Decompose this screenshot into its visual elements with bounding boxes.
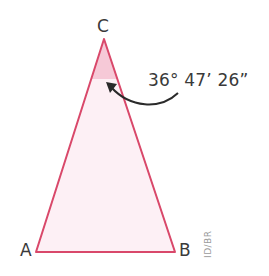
vertex-label-b: B xyxy=(179,242,191,259)
image-credit: ID/BR xyxy=(203,230,213,258)
angle-c-measure: 36° 47’ 26” xyxy=(148,72,249,89)
vertex-label-a: A xyxy=(20,242,32,259)
angle-c-marker xyxy=(91,39,117,79)
vertex-label-c: C xyxy=(97,18,109,35)
triangle-figure xyxy=(0,0,269,276)
